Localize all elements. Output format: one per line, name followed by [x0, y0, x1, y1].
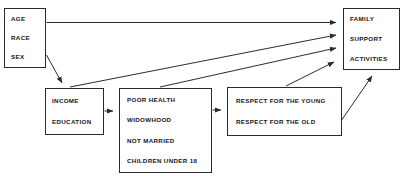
edge-respect-to-outcomes-left — [286, 62, 334, 86]
node-outcomes[interactable]: FAMILY SUPPORT ACTIVITIES — [343, 8, 400, 70]
edge-respect-to-outcomes-bottom — [341, 76, 372, 121]
node-demographics[interactable]: AGE RACE SEX — [4, 8, 46, 68]
node-respect[interactable]: RESPECT FOR THE YOUNG RESPECT FOR THE OL… — [227, 87, 342, 136]
node-demographics-line-2: RACE — [11, 35, 30, 41]
edge-needs-to-outcomes — [160, 48, 336, 87]
edge-demographics-to-ses — [47, 55, 63, 83]
node-needs-line-1: POOR HEALTH — [127, 97, 175, 103]
edge-ses-to-outcomes — [70, 35, 336, 87]
node-socioeconomic-line-1: INCOME — [52, 98, 79, 104]
node-needs-line-4: CHILDREN UNDER 18 — [127, 158, 197, 164]
node-respect-line-2: RESPECT FOR THE OLD — [236, 119, 316, 125]
node-demographics-line-1: AGE — [11, 16, 25, 22]
node-demographics-line-3: SEX — [11, 54, 24, 60]
node-outcomes-line-2: SUPPORT — [350, 36, 382, 42]
node-respect-line-1: RESPECT FOR THE YOUNG — [236, 98, 326, 104]
node-socioeconomic-line-2: EDUCATION — [52, 119, 91, 125]
node-needs-line-2: WIDOWHOOD — [127, 117, 171, 123]
node-outcomes-line-3: ACTIVITIES — [350, 56, 388, 62]
node-socioeconomic[interactable]: INCOME EDUCATION — [45, 88, 104, 135]
node-needs-line-3: NOT MARRIED — [127, 138, 175, 144]
flow-diagram: AGE RACE SEX INCOME EDUCATION POOR HEALT… — [0, 0, 407, 179]
node-outcomes-line-1: FAMILY — [350, 16, 374, 22]
node-needs[interactable]: POOR HEALTH WIDOWHOOD NOT MARRIED CHILDR… — [119, 88, 212, 173]
